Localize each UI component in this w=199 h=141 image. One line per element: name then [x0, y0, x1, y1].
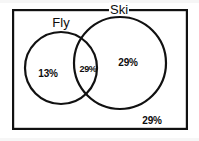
venn-diagram-svg	[0, 0, 199, 141]
universal-set-rectangle	[13, 10, 187, 129]
venn-diagram-figure: Fly Ski 13% 29% 29% 29%	[0, 0, 199, 141]
